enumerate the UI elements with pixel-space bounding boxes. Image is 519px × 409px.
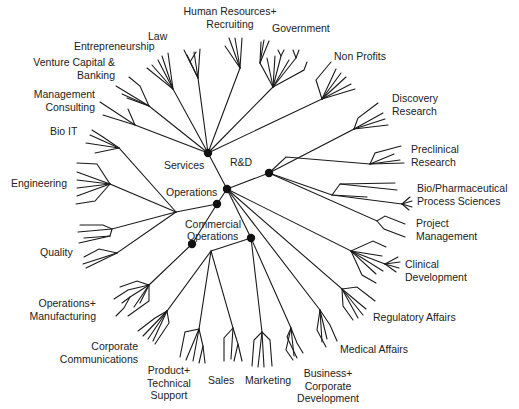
hub-label-services: Services xyxy=(164,159,204,172)
operations-node[interactable] xyxy=(213,200,221,208)
category-label-product-technical-support: Product+ Technical Support xyxy=(140,364,198,402)
hub-label-rnd: R&D xyxy=(230,156,252,169)
category-label-business-corporate-development: Business+ Corporate Development xyxy=(294,367,362,405)
hub-label-operations: Operations xyxy=(166,186,217,199)
category-label-engineering: Engineering xyxy=(11,177,67,190)
tree-edges xyxy=(76,38,412,367)
category-label-discovery-research: Discovery Research xyxy=(392,92,438,117)
category-label-bio-pharmaceutical-process-sciences: Bio/Pharmaceutical Process Sciences xyxy=(417,182,507,207)
category-label-project-management: Project Management xyxy=(416,217,477,242)
services-node[interactable] xyxy=(204,149,212,157)
category-label-medical-affairs: Medical Affairs xyxy=(340,343,408,356)
category-label-bio-it: Bio IT xyxy=(50,125,77,138)
category-label-entrepreneurship: Entrepreneurship xyxy=(74,40,155,53)
category-label-hr: Human Resources+ Recruiting xyxy=(174,5,286,30)
commercial-operations-node[interactable] xyxy=(247,234,255,242)
category-label-regulatory-affairs: Regulatory Affairs xyxy=(373,311,456,324)
category-label-corporate-communications: Corporate Communications xyxy=(50,340,138,365)
category-label-venture-capital: Venture Capital & Banking xyxy=(20,56,115,81)
category-label-operations-manufacturing: Operations+ Manufacturing xyxy=(20,297,96,322)
category-label-preclinical-research: Preclinical Research xyxy=(411,143,459,168)
category-label-clinical-development: Clinical Development xyxy=(405,258,467,283)
category-label-non-profits: Non Profits xyxy=(334,50,386,63)
hub-label-commercial-line2: Operations xyxy=(187,230,238,243)
rnd-right-node[interactable] xyxy=(265,169,273,177)
rnd-node[interactable] xyxy=(223,185,231,193)
category-label-government: Government xyxy=(272,22,330,35)
category-label-management-consulting: Management Consulting xyxy=(15,88,95,113)
category-label-quality: Quality xyxy=(40,246,73,259)
hub-label-commercial-line1: Commercial xyxy=(185,218,241,231)
category-label-sales: Sales xyxy=(208,374,234,387)
category-label-marketing: Marketing xyxy=(245,374,291,387)
